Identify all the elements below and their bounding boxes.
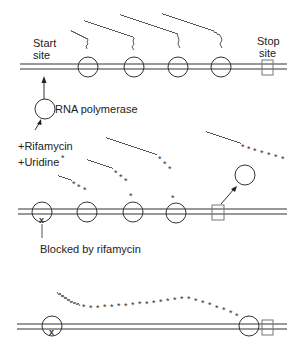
transcription-diagram: Start site Stop site RNA polymerase +Rif… (0, 0, 298, 344)
uridine-asterisks: * (241, 142, 245, 152)
svg-text:*: * (235, 311, 239, 321)
uridine-asterisks: * (260, 148, 264, 158)
arrow-line (221, 189, 234, 204)
rna-chains (71, 13, 222, 50)
uridine-asterisks: * (77, 182, 81, 192)
svg-text:*: * (131, 300, 135, 310)
svg-text:*: * (124, 301, 128, 311)
uridine-asterisks: * (274, 152, 278, 162)
svg-text:*: * (187, 294, 191, 304)
polymerase-circle (166, 203, 186, 223)
stop-site-square (212, 205, 224, 220)
polymerase-circle (168, 57, 188, 77)
stop-site-label: Stop (257, 35, 280, 47)
panel-3: x * * * * * * * * * * * * * * * * * * * … (17, 292, 287, 337)
rna-zigzag (57, 292, 80, 306)
svg-text:*: * (215, 303, 219, 313)
polymerase-circle (78, 57, 98, 77)
svg-text:*: * (117, 301, 121, 311)
uridine-asterisks: * (247, 144, 251, 154)
released-polymerase-circle (235, 165, 255, 185)
stop-site-label-2: site (259, 47, 276, 59)
rna-polymerase-free-circle (35, 99, 55, 119)
uridine-asterisks: * (253, 146, 257, 156)
rna-zigzag (84, 20, 134, 50)
svg-text:*: * (103, 302, 107, 312)
uridine-asterisks: * (119, 172, 123, 182)
svg-text:*: * (145, 299, 149, 309)
svg-text:*: * (222, 305, 226, 315)
uridine-asterisks: * (267, 150, 271, 160)
diagram-canvas: Start site Stop site RNA polymerase +Rif… (0, 0, 298, 344)
polymerase-circle (123, 202, 143, 222)
labeled-rna: * * * * * * * * * * * * * * * * * * * * … (82, 294, 239, 321)
rna-chains (58, 131, 241, 181)
rna-polymerase-label: RNA polymerase (55, 103, 138, 115)
rifamycin-mark: x (49, 327, 54, 337)
uridine-asterisks: * (171, 193, 175, 203)
blocked-label: Blocked by rifamycin (40, 243, 141, 255)
polymerase-circle (211, 57, 231, 77)
polymerase-circle (124, 57, 144, 77)
stop-site-square (262, 320, 273, 335)
arrow-head-icon (37, 119, 42, 125)
uridine-asterisks: * (168, 164, 172, 174)
svg-text:*: * (96, 303, 100, 313)
uridine-asterisks: * (129, 191, 133, 201)
uridine-label: +Uridine (18, 156, 59, 168)
polymerase-at-stop-circle (239, 316, 259, 336)
svg-text:*: * (194, 296, 198, 306)
rifamycin-mark: x (39, 215, 44, 225)
uridine-asterisks: * (83, 185, 87, 195)
panel-1: Start site Stop site RNA polymerase (20, 13, 287, 119)
uridine-asterisks: * (114, 168, 118, 178)
svg-text:*: * (208, 300, 212, 310)
rna-zigzag (206, 131, 241, 144)
uridine-asterisk: * (61, 153, 65, 163)
uridine-asterisks: * (72, 179, 76, 189)
svg-text:*: * (159, 297, 163, 307)
uridine-asterisks: * (163, 159, 167, 169)
svg-text:*: * (82, 302, 86, 312)
start-site-label: Start (33, 37, 56, 49)
rna-zigzag (58, 175, 72, 181)
reagents: +Rifamycin +Uridine * (18, 119, 73, 168)
polymerase-circle (77, 202, 97, 222)
svg-text:*: * (173, 295, 177, 305)
uridine-asterisks: * (124, 176, 128, 186)
svg-text:*: * (201, 298, 205, 308)
rna-zigzag (87, 159, 113, 169)
svg-text:*: * (152, 298, 156, 308)
rna-zigzag (120, 14, 180, 48)
uridine-asterisks: * (281, 154, 285, 164)
svg-text:*: * (166, 296, 170, 306)
rna-zigzag (71, 30, 88, 49)
svg-text:*: * (89, 303, 93, 313)
svg-text:*: * (110, 302, 114, 312)
stop-site-square (262, 60, 273, 75)
labeled-rna: * * * * * * * * * * * * * * * * * * (72, 142, 285, 203)
rifamycin-label: +Rifamycin (18, 140, 73, 152)
svg-text:*: * (138, 299, 142, 309)
arrow-head-icon (42, 76, 47, 83)
start-site-label-2: site (33, 49, 50, 61)
svg-text:*: * (229, 308, 233, 318)
svg-text:*: * (180, 294, 184, 304)
uridine-asterisks: * (158, 154, 162, 164)
rna-zigzag (106, 137, 157, 155)
